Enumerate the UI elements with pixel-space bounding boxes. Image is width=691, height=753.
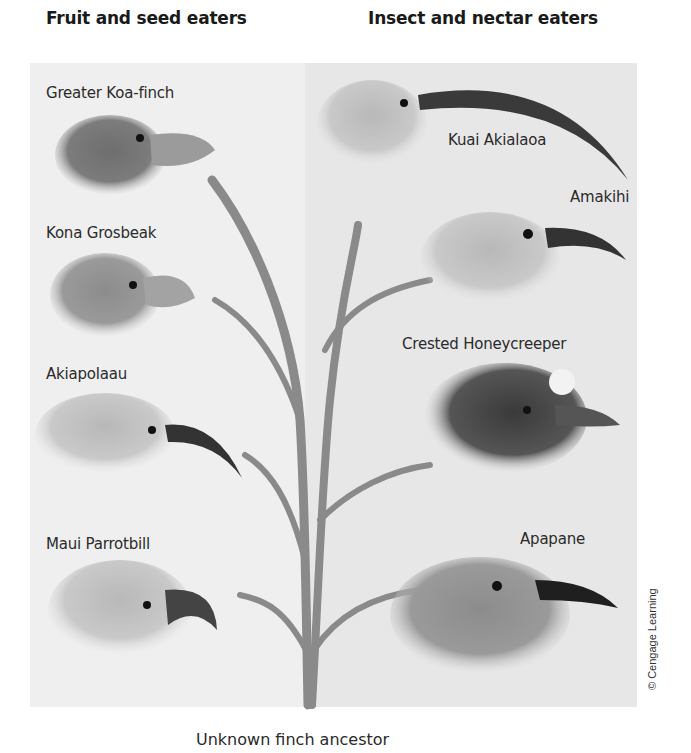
label-crested-honeycreeper: Crested Honeycreeper xyxy=(402,335,566,353)
bird-apapane xyxy=(390,557,618,673)
label-kona-grosbeak: Kona Grosbeak xyxy=(46,224,156,242)
label-maui-parrotbill: Maui Parrotbill xyxy=(46,535,150,553)
bird-akiapolaau xyxy=(35,393,242,478)
label-akiapolaau: Akiapolaau xyxy=(46,365,127,383)
bird-greater-koa-finch xyxy=(55,115,215,195)
bird-kuai-akialaoa xyxy=(317,80,628,180)
label-apapane: Apapane xyxy=(520,530,585,548)
bird-amakihi xyxy=(420,212,626,308)
label-unknown-finch-ancestor: Unknown finch ancestor xyxy=(196,730,389,749)
label-kuai-akialaoa: Kuai Akialaoa xyxy=(448,131,546,149)
bird-crested-honeycreeper xyxy=(423,363,620,473)
label-greater-koa-finch: Greater Koa-finch xyxy=(46,84,174,102)
bird-kona-grosbeak xyxy=(50,253,195,337)
bird-maui-parrotbill xyxy=(48,560,217,660)
copyright-credit: © Cengage Learning xyxy=(646,588,658,690)
label-amakihi: Amakihi xyxy=(570,188,629,206)
